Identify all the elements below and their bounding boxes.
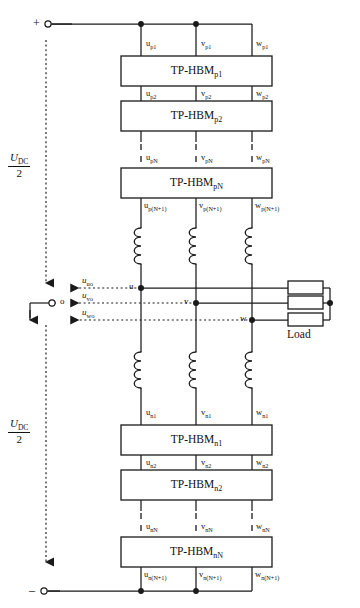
port-label-upN: upN — [146, 152, 158, 164]
negative-terminal-label: – — [29, 583, 35, 598]
phase-voltage-arrows — [72, 288, 252, 320]
port-label-wp2: wp2 — [256, 88, 268, 100]
terminal-circles — [41, 21, 55, 594]
inductor-v-upper — [189, 228, 196, 264]
positive-terminal-node — [45, 21, 51, 27]
port-label-up-n1: up(N+1) — [144, 200, 167, 212]
phase-node-w-label: w — [240, 313, 247, 323]
module-label-p1: TP-HBMp1 — [121, 64, 272, 79]
port-label-wn1: wn1 — [256, 407, 268, 419]
port-label-wnN: wnN — [256, 521, 270, 533]
inductor-w-upper — [245, 228, 252, 264]
inductor-u-upper — [134, 228, 141, 264]
phase-node-v-label: v — [184, 296, 189, 306]
port-label-wp1: wp1 — [256, 38, 268, 50]
schematic-canvas — [0, 0, 360, 608]
midpoint-terminal-label: o — [60, 296, 65, 306]
port-label-up1: up1 — [146, 38, 156, 50]
port-label-unN: unN — [146, 521, 158, 533]
port-label-wp-n1: wp(N+1) — [255, 200, 279, 212]
port-label-vn1: vn1 — [201, 407, 211, 419]
udc-upper-label: UDC 2 — [8, 152, 30, 180]
positive-terminal-label: + — [33, 16, 40, 31]
inductor-v-lower — [189, 352, 196, 388]
port-label-un-n1: un(N+1) — [144, 569, 167, 581]
module-label-n1: TP-HBMn1 — [121, 433, 272, 448]
midpoint-terminal-node — [49, 300, 55, 306]
module-label-p2: TP-HBMp2 — [121, 109, 272, 124]
voltage-label-vo: uvo — [82, 290, 93, 302]
inductor-u-lower — [134, 352, 141, 388]
port-label-vp1: vp1 — [201, 38, 211, 50]
port-label-un2: un2 — [146, 457, 156, 469]
udc-lower-label: UDC 2 — [8, 418, 30, 446]
port-label-un1: un1 — [146, 407, 156, 419]
arm-conductors — [141, 198, 252, 425]
load-label: Load — [287, 328, 311, 340]
port-label-wn2: wn2 — [256, 457, 268, 469]
port-label-wn-n1: wn(N+1) — [255, 569, 279, 581]
phase-node-u-label: u — [129, 281, 134, 291]
port-label-vn2: vn2 — [201, 457, 211, 469]
port-label-vp2: vp2 — [201, 88, 211, 100]
module-label-n2: TP-HBMn2 — [121, 478, 272, 493]
arm-inductors — [134, 228, 252, 388]
terminal-leads — [30, 24, 72, 591]
voltage-label-wo: uwo — [82, 307, 94, 319]
circuit-diagram: + – o UDC 2 UDC 2 u v w uuo uvo uwo Load… — [0, 0, 360, 608]
module-label-pN: TP-HBMpN — [121, 176, 272, 191]
port-label-wpN: wpN — [256, 152, 270, 164]
negative-terminal-node — [41, 588, 47, 594]
port-label-vnN: vnN — [201, 521, 213, 533]
port-label-vpN: vpN — [201, 152, 213, 164]
port-label-vn-n1: vn(N+1) — [199, 569, 222, 581]
inductor-w-lower — [245, 352, 252, 388]
port-label-vp-n1: vp(N+1) — [199, 200, 222, 212]
module-label-nN: TP-HBMnN — [121, 545, 272, 560]
load-elements — [288, 281, 323, 326]
voltage-label-uo: uuo — [82, 275, 93, 287]
port-label-up2: up2 — [146, 88, 156, 100]
